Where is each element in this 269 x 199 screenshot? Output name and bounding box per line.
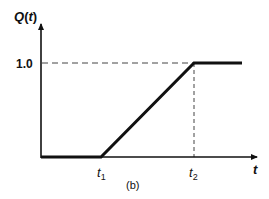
ramp-function-diagram: Q(t) 1.0 t1 t2 t (b): [0, 0, 269, 199]
q-of-t-curve: [41, 63, 242, 157]
x-axis-label: t: [253, 162, 258, 177]
figure-caption: (b): [126, 179, 139, 191]
y-tick-label: 1.0: [16, 57, 33, 71]
y-axis-label: Q(t): [14, 9, 37, 24]
x-tick-label-t2: t2: [189, 165, 198, 182]
x-tick-label-t1: t1: [97, 165, 106, 182]
